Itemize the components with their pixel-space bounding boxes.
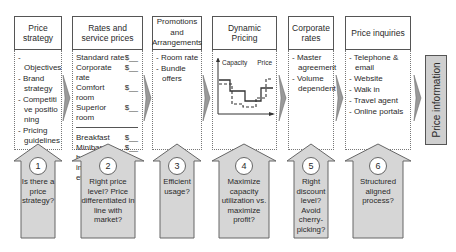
rate-label: Comfort room bbox=[76, 83, 125, 103]
service-label: Breakfast bbox=[76, 133, 110, 143]
step-number: 5 bbox=[302, 157, 320, 175]
rate-value: $__ bbox=[125, 63, 138, 83]
rate-row: Standard rate$__ bbox=[76, 53, 138, 63]
column-dynamic-pricing: Dynamic Pricing Capacity Price bbox=[212, 16, 277, 150]
column-header: Price strategy bbox=[14, 16, 62, 50]
column-corporate-rates: Corporate rates Master agreement Volume … bbox=[288, 16, 334, 150]
question-arrow-5: 5 Right discount level? Avoid cherry-pic… bbox=[286, 143, 336, 239]
question-arrow-1: 1 Is there a price strategy? bbox=[13, 143, 63, 239]
column-rates: Rates and service prices Standard rate$_… bbox=[72, 16, 143, 150]
step-number: 4 bbox=[235, 157, 253, 175]
chevron-right-icon bbox=[278, 75, 287, 121]
question-text: Right discount level? Avoid cherry-picki… bbox=[294, 177, 328, 234]
column-body: Telephone & email Website Walk in Travel… bbox=[345, 50, 411, 150]
list-item: Telephone & email bbox=[349, 53, 408, 73]
column-price-strategy: Price strategy Objectives Brand strategy… bbox=[14, 16, 62, 150]
list-item: Travel agent bbox=[349, 96, 408, 106]
list-item: Room rate bbox=[156, 53, 199, 63]
column-body: Master agreement Volume dependent bbox=[288, 50, 334, 150]
question-arrow-3: 3 Efficient usage? bbox=[152, 143, 202, 239]
step-number: 3 bbox=[168, 157, 186, 175]
chevron-right-icon bbox=[143, 75, 152, 121]
rate-row: Superior room$__ bbox=[76, 103, 138, 123]
column-header: Corporate rates bbox=[288, 16, 334, 50]
step-number: 6 bbox=[369, 157, 387, 175]
column-body: Standard rate$__ Corporate rate$__ Comfo… bbox=[72, 50, 143, 150]
question-arrow-2: 2 Right price level? Price differentiate… bbox=[71, 143, 145, 239]
rate-label: Standard rate bbox=[76, 53, 124, 63]
rate-value: $__ bbox=[125, 53, 138, 63]
column-header: Rates and service prices bbox=[72, 16, 143, 50]
price-information-label-box: Price information bbox=[425, 55, 447, 145]
rate-value: $__ bbox=[125, 83, 138, 103]
question-arrow-4: 4 Maximize capacity utilization vs. maxi… bbox=[211, 143, 277, 239]
list-item: Walk in bbox=[349, 85, 408, 95]
question-arrow-6: 6 Structured aligned process? bbox=[344, 143, 412, 239]
column-header: Price inquiries bbox=[345, 16, 411, 50]
divider bbox=[76, 127, 138, 128]
column-header: Dynamic Pricing bbox=[212, 16, 277, 50]
rate-value: $__ bbox=[125, 103, 138, 123]
list-item: Volume dependent bbox=[292, 74, 331, 94]
column-body: Capacity Price bbox=[212, 50, 277, 150]
side-label: Price information bbox=[431, 62, 442, 137]
chevron-right-icon bbox=[413, 75, 422, 121]
list-item: Brand strategy bbox=[18, 74, 59, 94]
step-number: 1 bbox=[29, 157, 47, 175]
chevron-right-icon bbox=[62, 75, 71, 121]
column-body: Objectives Brand strategy Competitive po… bbox=[14, 50, 62, 150]
question-text: Maximize capacity utilization vs. maximi… bbox=[217, 177, 271, 225]
rate-label: Superior room bbox=[76, 103, 125, 123]
rate-label: Corporate rate bbox=[76, 63, 125, 83]
column-price-inquiries: Price inquiries Telephone & email Websit… bbox=[345, 16, 411, 150]
rate-row: Comfort room$__ bbox=[76, 83, 138, 103]
column-promotions: Promotions and Arrangements Room rate Bu… bbox=[152, 16, 202, 150]
question-text: Right price level? Price differentiated … bbox=[81, 177, 135, 225]
column-body: Room rate Bundle offers bbox=[152, 50, 202, 150]
question-text: Efficient usage? bbox=[160, 177, 194, 196]
dynamic-pricing-chart bbox=[213, 58, 276, 118]
chevron-right-icon bbox=[335, 75, 344, 121]
question-text: Is there a price strategy? bbox=[21, 177, 55, 206]
list-item: Competitive positioning bbox=[18, 95, 59, 125]
step-number: 2 bbox=[99, 157, 117, 175]
rate-row: Corporate rate$__ bbox=[76, 63, 138, 83]
list-item: Website bbox=[349, 74, 408, 84]
list-item: Master agreement bbox=[292, 53, 331, 73]
chevron-right-icon bbox=[202, 75, 211, 121]
column-header: Promotions and Arrangements bbox=[152, 16, 202, 50]
service-row: Breakfast$__ bbox=[76, 133, 138, 143]
list-item: Bundle offers bbox=[156, 64, 199, 84]
question-text: Structured aligned process? bbox=[353, 177, 403, 206]
service-value: $__ bbox=[125, 133, 138, 143]
list-item: Objectives bbox=[18, 53, 59, 73]
list-item: Online portals bbox=[349, 107, 408, 117]
